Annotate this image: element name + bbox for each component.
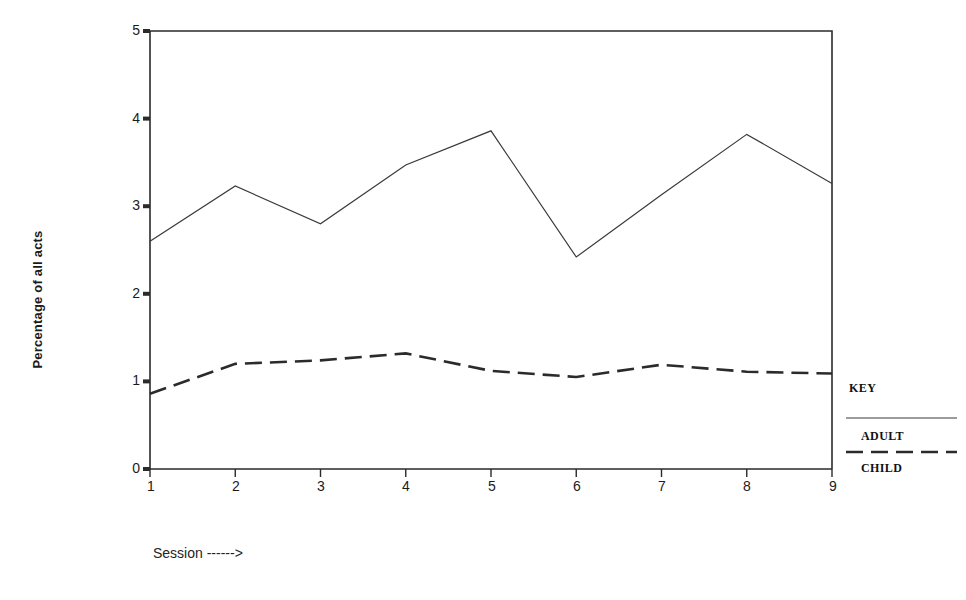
x-tick-label-3: 3 xyxy=(311,478,331,494)
x-tick-label-6: 6 xyxy=(567,478,587,494)
x-tick-label-4: 4 xyxy=(396,478,416,494)
x-tick-label-5: 5 xyxy=(482,478,502,494)
legend-title: KEY xyxy=(849,381,876,396)
axis-frame xyxy=(150,31,832,469)
series-line-adult xyxy=(150,131,832,257)
chart-figure: Percentage of all acts Session ------> 5… xyxy=(0,0,966,600)
plot-canvas xyxy=(0,0,966,600)
x-axis-ticks xyxy=(150,469,832,477)
legend-label-adult: ADULT xyxy=(861,429,904,444)
y-axis-label: Percentage of all acts xyxy=(30,200,45,400)
y-tick-label-0: 0 xyxy=(118,460,140,476)
y-tick-label-3: 3 xyxy=(118,197,140,213)
x-tick-label-7: 7 xyxy=(652,478,672,494)
y-tick-label-5: 5 xyxy=(118,22,140,38)
x-tick-label-8: 8 xyxy=(737,478,757,494)
x-tick-label-9: 9 xyxy=(823,478,843,494)
legend-label-child: CHILD xyxy=(861,461,902,476)
y-tick-label-2: 2 xyxy=(118,285,140,301)
y-axis-ticks xyxy=(143,31,150,469)
x-tick-label-2: 2 xyxy=(226,478,246,494)
y-tick-label-4: 4 xyxy=(118,110,140,126)
x-tick-label-1: 1 xyxy=(141,478,161,494)
y-tick-label-1: 1 xyxy=(118,372,140,388)
x-axis-label: Session ------> xyxy=(153,545,243,561)
series-line-child xyxy=(150,353,832,393)
